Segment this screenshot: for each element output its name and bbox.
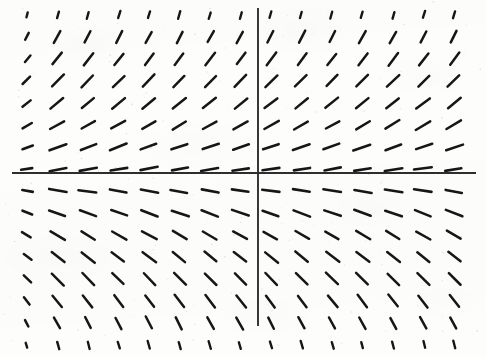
slope-segment [300,12,302,18]
slope-segment [239,342,241,349]
slope-segment [361,12,363,18]
slope-segment [111,121,125,128]
scan-speck [29,157,30,158]
slope-segment [233,144,249,149]
slope-segment [262,190,279,192]
slope-segment [80,168,97,171]
scan-speck [48,231,49,232]
scan-speck [441,117,443,119]
scan-speck [18,96,20,98]
slope-segment [263,168,280,170]
scan-speck [98,170,99,171]
scan-speck [231,292,232,293]
slope-segment [416,232,430,240]
scan-speck [307,12,308,13]
scan-speck [104,335,105,336]
scan-speck [27,83,28,84]
slope-segment [144,273,155,285]
scan-speck [241,217,242,218]
scan-speck [417,258,418,259]
scan-speck [315,111,317,113]
slope-segment [233,121,247,129]
scan-speck [207,289,208,290]
scan-speck [368,174,369,175]
scan-speck [409,266,410,267]
slope-segment [110,144,127,151]
slope-segment [82,252,95,262]
scan-speck [288,240,290,242]
scan-speck [312,33,313,34]
scan-speck [109,61,110,62]
scan-speck [143,95,144,96]
scan-speck [192,194,194,196]
scan-speck [380,78,381,79]
slope-segment [270,12,272,18]
slope-segment [388,274,399,285]
slope-segment [57,12,59,18]
slope-segment [142,121,155,129]
slope-segment [453,341,455,348]
slope-segment [23,77,30,84]
slope-segment [171,144,187,149]
slope-segment [263,211,279,217]
slope-segment [328,296,338,307]
scan-speck [74,178,75,179]
scan-speck [224,256,226,258]
scan-speck [327,10,329,12]
slope-segment [50,121,64,129]
scan-speck [482,3,483,4]
slope-segment [265,273,276,285]
slope-segment [148,11,150,18]
slope-segment [203,144,219,149]
slope-segment [237,53,246,64]
slope-segment [390,32,396,43]
scan-speck [480,68,482,70]
slope-segment [417,273,429,285]
slope-segment [173,98,186,108]
slope-segment [51,231,65,239]
scan-speck [417,305,418,306]
slope-segment [296,98,308,108]
slope-segment [87,12,89,19]
slope-segment [23,211,33,215]
scan-speck [329,345,330,346]
scan-speck [153,249,154,250]
scan-speck [147,118,148,119]
slope-segment [111,168,128,171]
scan-speck [243,97,244,98]
scan-speck [131,330,132,331]
slope-segment [387,252,400,262]
slope-segment [416,121,430,130]
slope-segment [172,167,188,170]
slope-segment [446,190,462,193]
scan-speck [22,8,24,10]
scan-speck [338,184,339,185]
scan-speck [422,121,423,122]
scan-speck [163,120,164,121]
slope-segment [177,32,183,43]
scan-speck [8,214,9,215]
slope-segment [447,231,461,239]
slope-segment [141,189,158,192]
scan-speck [209,8,210,9]
slope-segment [141,144,157,150]
scan-speck [349,6,350,7]
scan-speck [304,96,305,97]
slope-segment [232,189,248,191]
slope-segment [386,98,398,108]
slope-segment [148,341,150,349]
slope-segment [201,168,218,171]
scan-speck [306,91,307,92]
scan-speck [55,336,56,337]
slope-segment [325,98,338,108]
scan-speck [267,304,268,305]
slope-segment [203,122,217,129]
scan-speck [140,275,141,276]
scan-speck [43,68,44,69]
scan-speck [304,36,306,38]
slope-segment [112,231,126,239]
scan-speck [313,225,314,226]
scan-speck [466,24,467,25]
slope-segment [359,31,366,43]
slope-segment [78,190,96,192]
